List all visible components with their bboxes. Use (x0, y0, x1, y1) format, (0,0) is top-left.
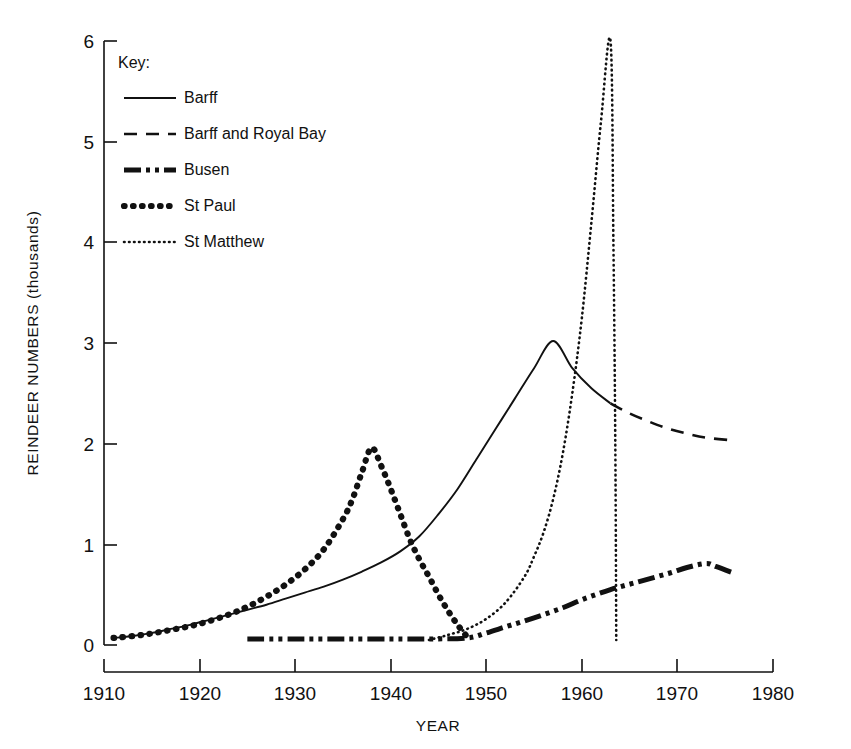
y-axis-ticks (104, 41, 117, 645)
y-tick-label-3: 3 (83, 333, 94, 354)
y-axis-title: REINDEER NUMBERS (thousands) (24, 211, 41, 476)
series-line-barff-and-royal-bay (611, 403, 735, 440)
y-tick-label-1: 1 (83, 535, 94, 556)
legend-item-st-matthew: St Matthew (124, 233, 264, 250)
legend-label: St Matthew (184, 233, 264, 250)
x-axis-ticks (104, 659, 773, 672)
chart-legend: Key: BarffBarff and Royal BayBusenSt Pau… (118, 54, 326, 250)
y-tick-label-6: 6 (83, 31, 94, 52)
y-tick-label-2: 2 (83, 434, 94, 455)
series-line-st-paul (114, 448, 468, 638)
legend-label: St Paul (184, 197, 236, 214)
x-tick-label-1980: 1980 (752, 683, 794, 704)
legend-title: Key: (118, 54, 150, 71)
x-tick-label-1970: 1970 (656, 683, 698, 704)
y-tick-label-0: 0 (83, 635, 94, 656)
legend-items: BarffBarff and Royal BayBusenSt PaulSt M… (124, 89, 326, 250)
y-tick-label-4: 4 (83, 232, 94, 253)
legend-item-st-paul: St Paul (124, 197, 236, 214)
legend-label: Barff (184, 89, 218, 106)
legend-label: Barff and Royal Bay (184, 125, 326, 142)
x-axis-title: YEAR (416, 717, 461, 734)
legend-item-barff: Barff (124, 89, 218, 106)
x-tick-label-1910: 1910 (83, 683, 125, 704)
x-tick-label-1940: 1940 (370, 683, 412, 704)
chart-canvas: 6 5 4 3 2 1 0 REINDEER NUMBERS (thousand… (0, 0, 851, 749)
legend-item-busen: Busen (124, 161, 229, 178)
y-axis: 6 5 4 3 2 1 0 REINDEER NUMBERS (thousand… (24, 31, 117, 656)
series-line-st-matthew (429, 37, 616, 640)
reindeer-population-chart: 6 5 4 3 2 1 0 REINDEER NUMBERS (thousand… (0, 0, 851, 749)
x-axis: 1910 1920 1930 1940 1950 1960 1970 1980 … (83, 659, 794, 734)
x-tick-label-1960: 1960 (561, 683, 603, 704)
x-tick-label-1920: 1920 (179, 683, 221, 704)
x-tick-label-1950: 1950 (465, 683, 507, 704)
series-line-busen (247, 563, 734, 639)
y-tick-label-5: 5 (83, 132, 94, 153)
legend-item-barff-and-royal-bay: Barff and Royal Bay (124, 125, 326, 142)
series-line-barff (114, 341, 611, 638)
legend-label: Busen (184, 161, 229, 178)
x-tick-label-1930: 1930 (274, 683, 316, 704)
